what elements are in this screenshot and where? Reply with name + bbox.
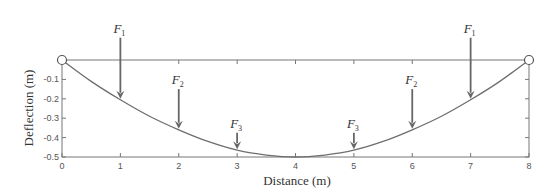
deflection-curve: [62, 60, 529, 157]
force-label: F3: [229, 116, 242, 133]
x-axis-label: Distance (m): [263, 173, 331, 188]
forces: F1F2F3F3F2F1: [112, 21, 475, 150]
force-arrow-F3-at-5: F3: [346, 116, 359, 149]
y-tick-label: -0.3: [43, 113, 59, 123]
y-tick-label: -0.2: [43, 94, 59, 104]
plot-frame: [62, 60, 529, 157]
force-subscript: 1: [472, 29, 476, 38]
x-tick-label: 8: [526, 161, 531, 171]
force-label: F2: [404, 72, 417, 89]
force-arrow-F2-at-2: F2: [171, 72, 184, 129]
y-ticks: -0.1-0.2-0.3-0.4-0.5: [43, 74, 529, 162]
force-label: F2: [171, 72, 184, 89]
force-subscript: 1: [121, 29, 125, 38]
y-tick-label: -0.4: [43, 133, 59, 143]
x-tick-label: 1: [118, 161, 123, 171]
deflection-chart: 012345678 -0.1-0.2-0.3-0.4-0.5 F1F2F3F3F…: [0, 0, 559, 191]
force-subscript: 3: [238, 124, 242, 133]
x-tick-label: 5: [351, 161, 356, 171]
x-tick-label: 7: [468, 161, 473, 171]
x-tick-label: 2: [176, 161, 181, 171]
x-tick-label: 6: [410, 161, 415, 171]
x-tick-label: 4: [293, 161, 298, 171]
force-subscript: 2: [180, 80, 184, 89]
pin-support-icon: [58, 56, 67, 65]
force-label: F1: [463, 21, 476, 38]
force-arrow-F2-at-6: F2: [404, 72, 417, 129]
force-label: F3: [346, 116, 359, 133]
x-ticks: 012345678: [59, 60, 531, 171]
y-tick-label: -0.5: [43, 152, 59, 162]
force-arrow-F3-at-3: F3: [229, 116, 242, 149]
y-tick-label: -0.1: [43, 74, 59, 84]
pin-support-icon: [525, 56, 534, 65]
curve-layer: [62, 60, 529, 157]
x-tick-label: 3: [235, 161, 240, 171]
force-subscript: 2: [413, 80, 417, 89]
force-label: F1: [112, 21, 125, 38]
axes: [62, 60, 529, 157]
force-subscript: 3: [355, 124, 359, 133]
x-tick-label: 0: [59, 161, 64, 171]
y-axis-label: Deflection (m): [21, 70, 36, 147]
